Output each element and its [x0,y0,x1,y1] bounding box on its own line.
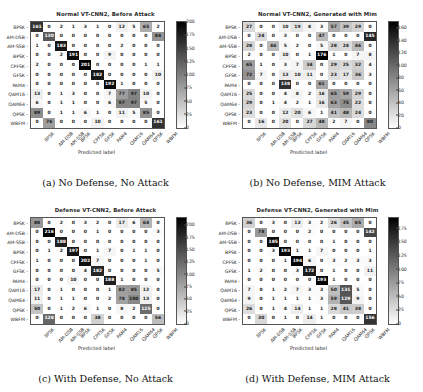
heatmap-cell: 185 [267,237,279,247]
heatmap-cell: 0 [43,60,55,70]
heatmap-cell: 0 [116,228,128,238]
heatmap-cell: 0 [31,70,43,80]
heatmap-cell: 0 [79,70,91,80]
heatmap-cell: 142 [364,228,376,238]
heatmap-cell: 0 [291,80,303,90]
panel-c-y-tick: GFSK - [0,267,28,277]
heatmap-cell: 2 [55,218,67,228]
heatmap-cell: 1 [328,237,340,247]
heatmap-cell: 0 [31,80,43,90]
heatmap-cell: 65 [140,22,152,32]
panel-d-y-tick: 8PSK - [210,219,240,229]
panel-c-colorbar-ticks: 0255075100125150175200 [186,217,210,323]
heatmap-cell: 0 [55,314,67,324]
panel-a-x-axis-label: Predicted label [30,149,163,155]
heatmap-cell: 0 [116,266,128,276]
panel-a-title: Normal VT-CNN2, Before Attack [0,11,211,17]
colorbar-tick-label: 100 [186,72,195,77]
heatmap-cell: 7 [291,285,303,295]
heatmap-cell: 0 [316,70,328,80]
heatmap-cell: 2 [116,41,128,51]
heatmap-cell: 0 [364,99,376,109]
heatmap-cell: 8 [364,51,376,61]
heatmap-cell: 26 [328,218,340,228]
panel-d-x-axis-label: Predicted label [242,345,375,351]
heatmap-cell: 3 [328,256,340,266]
panel-a-y-tick: 8PSK - [0,23,28,33]
heatmap-cell: 1 [303,295,315,305]
heatmap-cell: 2 [340,256,352,266]
colorbar-tick-label: 150 [186,247,195,252]
heatmap-cell: 3 [267,247,279,257]
heatmap-cell: 0 [116,70,128,80]
heatmap-cell: 28 [328,304,340,314]
panel-c-grid: 8802032017664002160001000030018800000000… [30,217,165,325]
heatmap-cell: 20 [291,108,303,118]
heatmap-cell: 97 [128,99,140,109]
heatmap-cell: 0 [128,228,140,238]
heatmap-cell: 0 [152,108,164,118]
heatmap-cell: 0 [340,32,352,42]
heatmap-cell: 27 [303,118,315,128]
heatmap-cell: 0 [104,218,116,228]
heatmap-cell: 0 [364,237,376,247]
heatmap-cell: 10 [291,70,303,80]
heatmap-cell: 0 [303,41,315,51]
colorbar-tick-label: 150 [398,239,407,244]
heatmap-cell: 5 [279,41,291,51]
heatmap-cell: 1 [152,60,164,70]
heatmap-cell: 6 [31,99,43,109]
heatmap-cell: 0 [364,295,376,305]
panel-d-x-tick: 8PSK [255,327,267,339]
heatmap-cell: 0 [328,247,340,257]
colorbar-tick-label: 125 [186,259,195,264]
heatmap-cell: 14 [291,304,303,314]
heatmap-cell: 0 [291,32,303,42]
panel-d-y-tick: QAM16 - [210,286,240,296]
heatmap-cell: 10 [279,51,291,61]
heatmap-cell: 1 [128,247,140,257]
heatmap-cell: 13 [279,70,291,80]
colorbar-tick-label: 20 [398,112,404,117]
colorbar-tick-label: 25 [398,307,404,312]
heatmap-cell: 0 [79,80,91,90]
heatmap-cell: 0 [303,237,315,247]
heatmap-cell: 6 [104,99,116,109]
heatmap-cell: 3 [79,22,91,32]
heatmap-cell: 38 [352,304,364,314]
heatmap-cell: 0 [79,314,91,324]
panel-a-y-tick: BPSK - [0,52,28,62]
heatmap-cell: 176 [316,51,328,61]
heatmap-cell: 0 [352,228,364,238]
heatmap-cell: 0 [152,304,164,314]
heatmap-cell: 7 [340,118,352,128]
colorbar-tick-label: 175 [186,234,195,239]
heatmap-cell: 6 [79,304,91,314]
heatmap-cell: 0 [255,304,267,314]
heatmap-cell: 88 [31,218,43,228]
heatmap-cell: 0 [243,247,255,257]
heatmap-cell: 131 [340,285,352,295]
heatmap-cell: 0 [255,89,267,99]
heatmap-cell: 0 [91,32,103,42]
heatmap-cell: 0 [67,41,79,51]
heatmap-cell: 0 [104,70,116,80]
heatmap-cell: 0 [267,108,279,118]
heatmap-cell: 75 [340,99,352,109]
heatmap-cell: 0 [128,266,140,276]
heatmap-cell: 3 [279,60,291,70]
heatmap-cell: 5 [316,41,328,51]
colorbar-tick-label: 125 [398,253,407,258]
heatmap-cell: 1 [243,266,255,276]
heatmap-cell: 85 [128,285,140,295]
heatmap-cell: 10 [279,22,291,32]
panel-d-colorbar-ticks: 0255075100125150175 [398,217,422,323]
heatmap-cell: 1 [267,304,279,314]
heatmap-cell: 1 [116,276,128,286]
heatmap-cell: 7 [316,247,328,257]
heatmap-cell: 48 [340,108,352,118]
heatmap-cell: 0 [352,32,364,42]
heatmap-cell: 2 [128,304,140,314]
heatmap-cell: 3 [67,89,79,99]
heatmap-cell: 0 [140,118,152,128]
